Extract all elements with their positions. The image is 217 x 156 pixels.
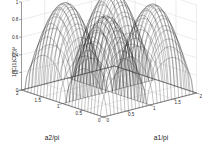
- y-tick-2: 1: [57, 104, 60, 109]
- z-tick-3: 0.6: [12, 35, 19, 40]
- z-tick-0: 0: [16, 88, 19, 93]
- x-tick-3: 1.5: [174, 100, 181, 105]
- y-tick-1: 0.5: [76, 111, 83, 116]
- axes-grid: [22, 0, 197, 117]
- x-tick-0: 0: [107, 118, 110, 123]
- mesh-surface: [22, 0, 197, 117]
- z-axis-title: 1/|C(1)C(2)|²: [11, 47, 17, 77]
- y-axis-title: a2/pi: [45, 134, 60, 142]
- z-tick-4: 0.8: [12, 17, 19, 22]
- x-tick-4: 2: [200, 94, 203, 99]
- x-tick-2: 1: [153, 106, 156, 111]
- x-tick-1: 0.5: [128, 112, 135, 117]
- figure-panel: 00.511.5200.511.5200.20.40.60.81 a1/pi a…: [0, 0, 217, 156]
- y-tick-3: 1.5: [35, 98, 42, 103]
- z-tick-5: 1: [16, 0, 19, 5]
- x-axis-title: a1/pi: [154, 134, 169, 142]
- surface-plot-3d: 00.511.5200.511.5200.20.40.60.81 a1/pi a…: [0, 0, 217, 156]
- y-tick-0: 0: [98, 118, 101, 123]
